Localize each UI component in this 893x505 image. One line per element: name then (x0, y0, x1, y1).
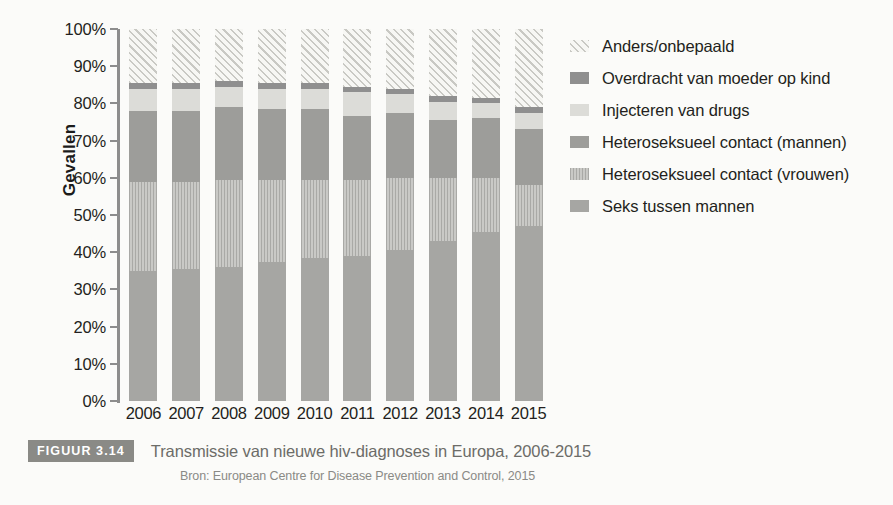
bar-segment-hetm (515, 129, 543, 185)
bar-2012[interactable] (386, 29, 414, 401)
bar-segment-hetv (429, 178, 457, 241)
bar-segment-hetv (258, 180, 286, 262)
bar-segment-mtc (215, 81, 243, 87)
bar-2008[interactable] (215, 29, 243, 401)
x-axis-label-2008: 2008 (206, 404, 252, 423)
bar-segment-other (343, 29, 371, 87)
bar-segment-mtc (429, 96, 457, 102)
bar-2011[interactable] (343, 29, 371, 401)
y-axis-tick-0: 0% (83, 392, 106, 411)
y-axis-tick-70: 70% (74, 131, 106, 150)
legend-item-label: Heteroseksueel contact (mannen) (602, 133, 847, 152)
bar-segment-other (472, 29, 500, 98)
bar-segment-hetm (172, 111, 200, 182)
figure-number-badge: FIGUUR 3.14 (28, 440, 134, 462)
x-axis-label-2007: 2007 (163, 404, 209, 423)
y-axis-tick-80: 80% (74, 94, 106, 113)
x-axis-label-2006: 2006 (120, 404, 166, 423)
bar-segment-hetm (472, 118, 500, 178)
legend-item-label: Seks tussen mannen (602, 197, 754, 216)
bar-segment-hetv (301, 180, 329, 258)
bar-segment-mtc (258, 83, 286, 89)
bar-segment-msm (129, 271, 157, 401)
bar-segment-hetm (429, 120, 457, 178)
bar-segment-mtc (515, 107, 543, 113)
bar-segment-msm (429, 241, 457, 401)
bar-segment-other (172, 29, 200, 83)
bar-segment-hetv (129, 182, 157, 271)
bar-segment-mtc (129, 83, 157, 89)
x-axis-label-2012: 2012 (377, 404, 423, 423)
bar-segment-hetv (215, 180, 243, 267)
bar-segment-mtc (172, 83, 200, 89)
bar-2014[interactable] (472, 29, 500, 401)
legend-item-label: Injecteren van drugs (602, 101, 750, 120)
figure-source-note: Bron: European Centre for Disease Preven… (180, 469, 868, 483)
chart-legend: Anders/onbepaaldOverdracht van moeder op… (570, 30, 890, 222)
bar-2007[interactable] (172, 29, 200, 401)
legend-item-mtc[interactable]: Overdracht van moeder op kind (570, 62, 890, 94)
bar-2013[interactable] (429, 29, 457, 401)
bar-segment-other (429, 29, 457, 96)
x-axis-label-2013: 2013 (420, 404, 466, 423)
bar-segment-mtc (472, 98, 500, 104)
bar-segment-hetv (515, 185, 543, 226)
legend-item-idu[interactable]: Injecteren van drugs (570, 94, 890, 126)
bar-segment-msm (301, 258, 329, 401)
figure-caption-block: FIGUUR 3.14 Transmissie van nieuwe hiv-d… (28, 440, 868, 483)
bar-segment-other (386, 29, 414, 89)
bar-segment-idu (472, 103, 500, 118)
bar-2006[interactable] (129, 29, 157, 401)
y-axis-tick-20: 20% (74, 317, 106, 336)
figure-caption-title: Transmissie van nieuwe hiv-diagnoses in … (151, 442, 591, 461)
bar-segment-msm (258, 262, 286, 402)
legend-item-label: Anders/onbepaald (602, 37, 734, 56)
bar-segment-other (301, 29, 329, 83)
bar-segment-hetv (386, 178, 414, 251)
bar-segment-idu (215, 87, 243, 107)
bar-2010[interactable] (301, 29, 329, 401)
bar-2015[interactable] (515, 29, 543, 401)
y-axis-tick-10: 10% (74, 354, 106, 373)
legend-swatch-icon (570, 72, 589, 84)
legend-swatch-icon (570, 200, 589, 212)
y-axis-tick-90: 90% (74, 57, 106, 76)
y-axis-tick-100: 100% (65, 20, 106, 39)
legend-item-label: Heteroseksueel contact (vrouwen) (602, 165, 849, 184)
bar-segment-hetm (215, 107, 243, 180)
legend-swatch-icon (570, 104, 589, 116)
caption-line: FIGUUR 3.14 Transmissie van nieuwe hiv-d… (28, 440, 868, 462)
bar-2009[interactable] (258, 29, 286, 401)
bar-segment-other (515, 29, 543, 107)
bar-segment-idu (172, 89, 200, 111)
bar-segment-idu (386, 94, 414, 113)
y-axis-tick-40: 40% (74, 243, 106, 262)
bar-segment-mtc (343, 87, 371, 93)
figure-page: Gevallen 0%10%20%30%40%50%60%70%80%90%10… (0, 0, 893, 505)
legend-item-label: Overdracht van moeder op kind (602, 69, 830, 88)
y-axis-tick-50: 50% (74, 206, 106, 225)
bar-segment-idu (429, 102, 457, 121)
legend-item-msm[interactable]: Seks tussen mannen (570, 190, 890, 222)
bar-segment-hetv (343, 180, 371, 256)
bars-container (122, 29, 550, 401)
x-axis-label-2009: 2009 (249, 404, 295, 423)
legend-item-other[interactable]: Anders/onbepaald (570, 30, 890, 62)
y-axis-line (117, 29, 120, 403)
x-axis-label-2014: 2014 (463, 404, 509, 423)
x-axis-tick-labels: 2006200720082009201020112012201320142015 (122, 404, 550, 430)
bar-segment-msm (386, 250, 414, 401)
legend-item-hetv[interactable]: Heteroseksueel contact (vrouwen) (570, 158, 890, 190)
x-axis-label-2015: 2015 (506, 404, 552, 423)
bar-segment-hetm (301, 109, 329, 180)
bar-segment-hetm (343, 116, 371, 179)
bar-segment-other (215, 29, 243, 81)
y-axis-tick-60: 60% (74, 168, 106, 187)
bar-segment-mtc (386, 89, 414, 95)
x-axis-label-2011: 2011 (334, 404, 380, 423)
bar-segment-msm (215, 267, 243, 401)
bar-segment-hetv (172, 182, 200, 269)
x-axis-label-2010: 2010 (292, 404, 338, 423)
bar-segment-msm (515, 226, 543, 401)
legend-item-hetm[interactable]: Heteroseksueel contact (mannen) (570, 126, 890, 158)
